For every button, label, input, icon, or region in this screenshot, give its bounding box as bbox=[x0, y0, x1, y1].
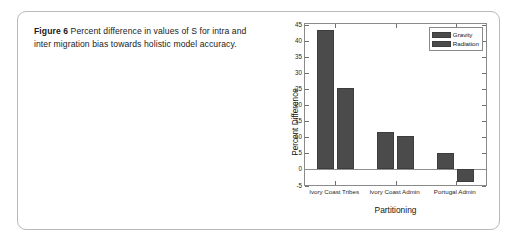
x-axis-title: Partitioning bbox=[304, 205, 487, 215]
y-tick-label: 20 bbox=[295, 101, 302, 108]
y-tick-label: 15 bbox=[295, 117, 302, 124]
y-tick-mark-right bbox=[482, 105, 486, 106]
y-tick-label: 45 bbox=[295, 21, 302, 28]
bar bbox=[457, 169, 474, 182]
y-tick-label: 40 bbox=[295, 37, 302, 44]
y-tick-mark-right bbox=[482, 57, 486, 58]
y-tick-mark-right bbox=[482, 137, 486, 138]
y-tick-mark bbox=[305, 89, 309, 90]
legend-swatch-radiation bbox=[432, 41, 451, 47]
y-tick-label: 25 bbox=[295, 85, 302, 92]
y-tick-label: 5 bbox=[298, 149, 302, 156]
y-tick-mark bbox=[305, 57, 309, 58]
y-tick-mark bbox=[305, 73, 309, 74]
bar bbox=[337, 88, 354, 169]
legend-swatch-gravity bbox=[432, 32, 451, 38]
bar bbox=[377, 132, 394, 169]
x-category-label: Ivory Coast Tribes bbox=[309, 188, 359, 195]
y-tick-mark bbox=[305, 105, 309, 106]
y-tick-label: 10 bbox=[295, 133, 302, 140]
figure-card: Figure 6 Percent difference in values of… bbox=[17, 11, 500, 230]
legend-item-radiation: Radiation bbox=[432, 39, 479, 48]
y-tick-mark bbox=[305, 137, 309, 138]
y-tick-mark bbox=[305, 41, 309, 42]
legend-label-radiation: Radiation bbox=[453, 40, 479, 47]
y-tick-label: 35 bbox=[295, 53, 302, 60]
bar-chart: Percent Difference Partitioning -5051015… bbox=[256, 12, 501, 231]
x-category-label: Portugal Admin bbox=[434, 188, 476, 195]
bar bbox=[317, 30, 334, 169]
x-tick-mark bbox=[396, 181, 397, 185]
legend-item-gravity: Gravity bbox=[432, 30, 479, 39]
y-tick-mark-right bbox=[482, 121, 486, 122]
y-tick-mark bbox=[305, 121, 309, 122]
plot-area: -5051015202530354045 Gravity Radiation bbox=[304, 23, 487, 186]
y-tick-mark-right bbox=[482, 25, 486, 26]
x-tick-mark bbox=[456, 181, 457, 185]
legend-label-gravity: Gravity bbox=[453, 31, 473, 38]
y-tick-mark-right bbox=[482, 73, 486, 74]
y-tick: -5 bbox=[305, 185, 486, 186]
y-tick-mark-right bbox=[482, 186, 486, 187]
bar bbox=[397, 136, 414, 169]
x-tick-mark-top bbox=[335, 24, 336, 28]
y-tick-mark-right bbox=[482, 153, 486, 154]
y-tick-label: -5 bbox=[296, 182, 302, 189]
x-category-label: Ivory Coast Admin bbox=[369, 188, 419, 195]
chart-legend: Gravity Radiation bbox=[429, 27, 483, 51]
y-tick-mark-right bbox=[482, 89, 486, 90]
figure-caption-label: Figure 6 bbox=[34, 26, 68, 36]
y-tick-mark bbox=[305, 153, 309, 154]
y-tick-mark bbox=[305, 25, 309, 26]
figure-caption: Figure 6 Percent difference in values of… bbox=[34, 25, 250, 51]
x-tick-mark-top bbox=[396, 24, 397, 28]
bar bbox=[437, 153, 454, 168]
y-tick-label: 0 bbox=[298, 165, 302, 172]
y-tick-label: 30 bbox=[295, 69, 302, 76]
y-tick-mark bbox=[305, 186, 309, 187]
x-tick-mark bbox=[335, 181, 336, 185]
